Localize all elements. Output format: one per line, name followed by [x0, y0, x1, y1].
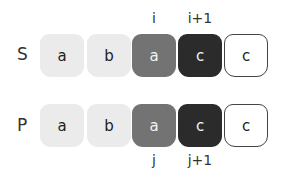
pointer-j-plus-1: j+1: [178, 152, 222, 168]
pointer-i: i: [132, 10, 176, 26]
p-cell-0: a: [40, 104, 84, 147]
p-cell-2: a: [132, 104, 176, 147]
s-cell-2: a: [132, 34, 176, 77]
p-cell-4: c: [224, 104, 268, 147]
p-cell-3: c: [178, 104, 222, 147]
pointer-i-plus-1: i+1: [178, 10, 222, 26]
pointer-j: j: [132, 152, 176, 168]
row-label-p: P: [17, 115, 27, 135]
s-cell-1: b: [87, 34, 131, 77]
row-label-s: S: [17, 44, 28, 64]
s-cell-4: c: [224, 34, 268, 77]
s-cell-3: c: [178, 34, 222, 77]
s-cell-0: a: [40, 34, 84, 77]
p-cell-1: b: [87, 104, 131, 147]
